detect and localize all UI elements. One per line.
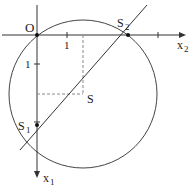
svg-text:S: S xyxy=(117,16,124,30)
x1-tick-label: 1 xyxy=(25,58,31,70)
x1-axis-arrow-icon xyxy=(34,171,40,178)
point-s1 xyxy=(35,123,39,127)
svg-text:1: 1 xyxy=(26,125,31,135)
origin-label: O xyxy=(25,20,34,35)
svg-text:S: S xyxy=(18,119,25,133)
coordinate-diagram: O 1 1 S S 2 S 1 x 2 x 1 xyxy=(0,0,190,186)
point-s-label: S xyxy=(87,92,94,106)
x1-axis-label: x 1 xyxy=(43,171,55,186)
x2-tick-label: 1 xyxy=(64,39,70,51)
svg-text:2: 2 xyxy=(125,22,130,32)
svg-text:1: 1 xyxy=(50,177,55,186)
point-s2-label: S 2 xyxy=(117,16,130,32)
svg-text:x: x xyxy=(43,171,49,185)
point-s1-label: S 1 xyxy=(18,119,31,135)
point-origin xyxy=(35,33,39,37)
point-s2 xyxy=(126,33,130,37)
svg-text:x: x xyxy=(177,38,183,52)
svg-text:2: 2 xyxy=(184,44,189,54)
x2-axis-label: x 2 xyxy=(177,38,189,54)
